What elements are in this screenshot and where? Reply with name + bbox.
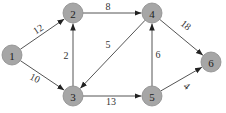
edge-weight-label: 2 [64, 50, 69, 61]
node-label: 2 [70, 8, 76, 20]
node-1: 1 [2, 45, 22, 65]
node-6: 6 [201, 52, 221, 72]
node-3: 3 [63, 86, 83, 106]
edge-4-to-3 [80, 20, 145, 88]
edge-weight-label: 13 [106, 96, 116, 107]
node-4: 4 [142, 3, 162, 23]
edge-weight-label: 5 [106, 39, 111, 50]
node-label: 1 [9, 50, 15, 62]
edge-weight-label: 18 [179, 18, 194, 33]
node-label: 5 [149, 91, 155, 103]
edge-weight-label: 10 [28, 71, 42, 85]
edge-weight-label: 4 [182, 80, 193, 92]
node-label: 4 [149, 8, 155, 20]
graph-diagram: 1210825136184 123456 [0, 0, 226, 113]
edge-1-to-2 [20, 19, 64, 49]
edge-weight-label: 6 [156, 49, 161, 60]
node-label: 3 [70, 91, 76, 103]
node-2: 2 [63, 3, 83, 23]
edge-labels-layer: 1210825136184 [28, 1, 193, 107]
nodes-layer: 123456 [2, 3, 221, 106]
edge-weight-label: 8 [106, 1, 111, 12]
node-label: 6 [208, 57, 214, 69]
edge-1-to-3 [20, 61, 64, 91]
edges-layer [20, 13, 203, 96]
node-5: 5 [142, 86, 162, 106]
